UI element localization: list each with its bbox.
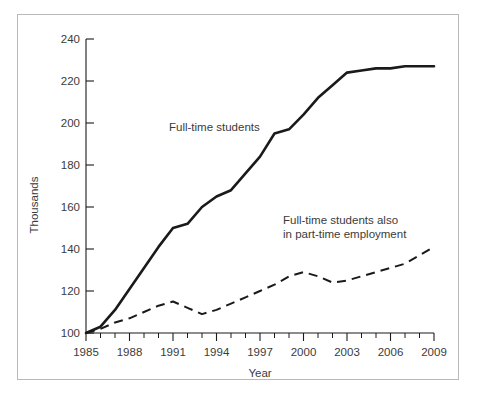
y-tick-label-240: 240: [61, 33, 80, 45]
x-axis-title: Year: [248, 367, 271, 379]
series-line-full-time-students: [86, 66, 434, 333]
y-tick-label-160: 160: [61, 201, 80, 213]
x-tick-label-1988: 1988: [117, 346, 143, 358]
y-tick-label-140: 140: [61, 243, 80, 255]
series-line-part-time-employment: [86, 247, 434, 333]
figure-root: Thousands 240 220 200 180 160 140 120 10…: [0, 0, 478, 403]
x-tick-label-1997: 1997: [247, 346, 273, 358]
x-tick-label-2000: 2000: [291, 346, 317, 358]
x-tick-label-2006: 2006: [378, 346, 404, 358]
y-tick-label-100: 100: [61, 327, 80, 339]
y-tick-label-180: 180: [61, 159, 80, 171]
annotation-part-time-line-1: Full-time students also: [283, 214, 398, 226]
y-tick-label-220: 220: [61, 75, 80, 87]
annotation-part-time-line-2: in part-time employment: [283, 228, 407, 240]
x-major-ticks: [86, 333, 434, 341]
annotation-part-time-employment: Full-time students also in part-time emp…: [283, 214, 407, 240]
x-tick-label-1991: 1991: [160, 346, 186, 358]
x-tick-label-1985: 1985: [73, 346, 99, 358]
line-chart: Thousands 240 220 200 180 160 140 120 10…: [18, 15, 458, 379]
x-tick-label-2003: 2003: [334, 346, 360, 358]
x-tick-label-1994: 1994: [204, 346, 230, 358]
annotation-full-time-students: Full-time students: [169, 121, 260, 133]
chart-frame: Thousands 240 220 200 180 160 140 120 10…: [17, 14, 459, 380]
y-tick-label-120: 120: [61, 285, 80, 297]
y-tick-label-200: 200: [61, 117, 80, 129]
y-axis-title: Thousands: [28, 176, 40, 233]
x-tick-label-2009: 2009: [421, 346, 447, 358]
